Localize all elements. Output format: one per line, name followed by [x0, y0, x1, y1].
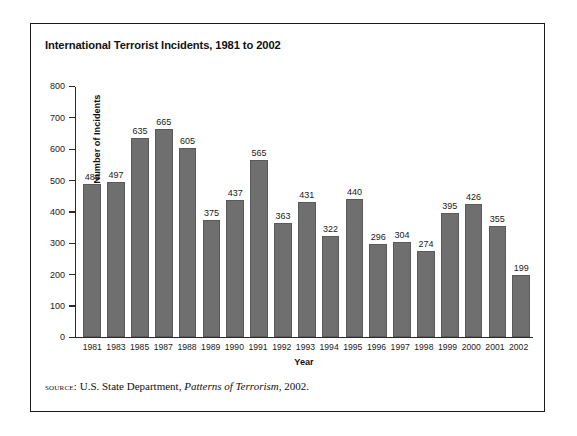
bar[interactable]: 375: [203, 220, 221, 337]
bar-value-label: 665: [156, 117, 171, 127]
x-axis-tick-labels: 1981198319851987198819891990199119921993…: [76, 342, 530, 352]
x-axis-tick-label: 1993: [294, 342, 318, 352]
y-axis-tick-label: 100: [50, 301, 65, 311]
x-axis-tick-label: 1985: [128, 342, 152, 352]
x-axis-tick-label: 1981: [80, 342, 104, 352]
source-publisher: U.S. State Department,: [80, 380, 182, 392]
bar-series: 4894976356656053754375653634313224402963…: [76, 87, 533, 337]
y-axis-tick: 700: [69, 117, 75, 118]
y-axis-tick-label: 600: [50, 144, 65, 154]
bar-value-label: 605: [180, 136, 195, 146]
bar[interactable]: 437: [226, 200, 244, 336]
source-label: source:: [45, 381, 77, 392]
x-axis-tick-label: 1989: [199, 342, 223, 352]
bar[interactable]: 605: [179, 148, 197, 337]
source-publication-title: Patterns of Terrorism: [184, 380, 279, 392]
bar-value-label: 431: [299, 190, 314, 200]
bar-slot: 431: [295, 87, 319, 337]
bar[interactable]: 395: [441, 213, 459, 336]
bar-value-label: 199: [514, 263, 529, 273]
y-axis-tick-label: 0: [60, 332, 65, 342]
bar-slot: 489: [80, 87, 104, 337]
figure-frame: International Terrorist Incidents, 1981 …: [30, 23, 545, 412]
x-axis-tick-label: 1997: [388, 342, 412, 352]
y-axis-tick: 500: [69, 180, 75, 181]
x-axis-tick-label: 1994: [317, 342, 341, 352]
bar-slot: 665: [152, 87, 176, 337]
bar[interactable]: 635: [131, 138, 149, 336]
bar[interactable]: 274: [417, 251, 435, 336]
bar-slot: 635: [128, 87, 152, 337]
bar-slot: 440: [343, 87, 367, 337]
x-axis-tick-label: 1996: [365, 342, 389, 352]
x-axis-line: [75, 337, 533, 338]
bar-slot: 199: [509, 87, 533, 337]
y-axis-tick-label: 200: [50, 270, 65, 280]
x-axis-tick-label: 1987: [151, 342, 175, 352]
bar[interactable]: 565: [250, 160, 268, 336]
x-axis-tick-label: 2001: [483, 342, 507, 352]
bar-slot: 426: [462, 87, 486, 337]
page-title: International Terrorist Incidents, 1981 …: [45, 39, 281, 51]
y-axis-tick-label: 800: [50, 81, 65, 91]
bar-slot: 322: [319, 87, 343, 337]
bar-slot: 605: [176, 87, 200, 337]
bar[interactable]: 431: [298, 202, 316, 336]
source-note: source: U.S. State Department, Patterns …: [45, 380, 309, 392]
y-axis-tick: 400: [69, 211, 75, 212]
bar[interactable]: 363: [274, 223, 292, 336]
y-axis-tick-label: 300: [50, 238, 65, 248]
plot-area: 8007006005004003002001000 48949763566560…: [75, 87, 533, 338]
x-axis-tick-label: 1995: [341, 342, 365, 352]
bar-slot: 363: [271, 87, 295, 337]
bar[interactable]: 304: [393, 242, 411, 337]
bar[interactable]: 355: [489, 226, 507, 337]
bar-slot: 274: [414, 87, 438, 337]
bar-value-label: 440: [347, 187, 362, 197]
bar[interactable]: 199: [512, 275, 530, 337]
bar[interactable]: 489: [83, 184, 101, 337]
y-axis-tick: 200: [69, 274, 75, 275]
y-axis-tick-label: 500: [50, 176, 65, 186]
bar-slot: 565: [247, 87, 271, 337]
bar-value-label: 355: [490, 214, 505, 224]
x-axis-title: Year: [75, 357, 533, 367]
bar[interactable]: 426: [465, 204, 483, 337]
x-axis-tick-label: 1998: [412, 342, 436, 352]
x-axis-tick-label: 2002: [507, 342, 531, 352]
bar[interactable]: 665: [155, 129, 173, 336]
bar-slot: 497: [104, 87, 128, 337]
source-year: , 2002.: [279, 380, 309, 392]
y-axis-tick: 800: [69, 86, 75, 87]
bar[interactable]: 296: [369, 244, 387, 336]
bar-slot: 355: [485, 87, 509, 337]
bar-value-label: 375: [204, 208, 219, 218]
bar-slot: 304: [390, 87, 414, 337]
bar-value-label: 296: [371, 232, 386, 242]
bar-value-label: 274: [418, 239, 433, 249]
y-axis-tick-label: 400: [50, 207, 65, 217]
bar-value-label: 395: [442, 201, 457, 211]
bar-slot: 296: [366, 87, 390, 337]
x-axis-tick-label: 1992: [270, 342, 294, 352]
y-axis-tick-label: 700: [50, 113, 65, 123]
bar-value-label: 565: [252, 148, 267, 158]
x-axis-tick-label: 1990: [223, 342, 247, 352]
bar-value-label: 426: [466, 192, 481, 202]
bar-slot: 395: [438, 87, 462, 337]
y-axis-tick: 600: [69, 149, 75, 150]
bar-value-label: 304: [395, 230, 410, 240]
bar-slot: 437: [223, 87, 247, 337]
bar-value-label: 437: [228, 188, 243, 198]
bar-value-label: 497: [109, 170, 124, 180]
bar-value-label: 635: [132, 126, 147, 136]
x-axis-tick-label: 1999: [436, 342, 460, 352]
y-axis-tick: 300: [69, 243, 75, 244]
bar-slot: 375: [200, 87, 224, 337]
y-axis-tick: 100: [69, 305, 75, 306]
bar[interactable]: 322: [322, 236, 340, 336]
bar[interactable]: 497: [107, 182, 125, 337]
bar[interactable]: 440: [346, 199, 364, 336]
y-axis-tick: 0: [69, 337, 75, 338]
bar-value-label: 322: [323, 224, 338, 234]
